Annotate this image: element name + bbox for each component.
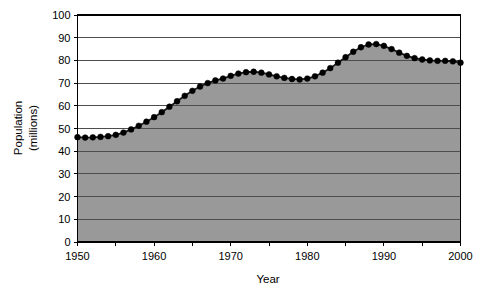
data-point — [396, 50, 402, 56]
y-tick-label-60: 60 — [58, 100, 70, 112]
data-point — [450, 58, 456, 64]
data-point — [404, 53, 410, 59]
data-point — [243, 69, 249, 75]
data-point — [312, 73, 318, 79]
data-point — [358, 44, 364, 50]
y-tick-label-0: 0 — [64, 236, 70, 248]
data-point — [136, 123, 142, 129]
data-point — [412, 55, 418, 61]
data-point — [212, 77, 218, 83]
data-point — [121, 130, 127, 136]
data-point — [281, 75, 287, 81]
data-point — [427, 58, 433, 64]
data-point — [419, 57, 425, 63]
population-chart: 0102030405060708090100 19501960197019801… — [0, 0, 495, 290]
y-axis-title-line1: Population — [12, 101, 24, 155]
data-point — [266, 72, 272, 78]
data-point — [320, 70, 326, 76]
data-point — [82, 135, 88, 141]
data-point — [327, 65, 333, 71]
y-tick-label-90: 90 — [58, 32, 70, 44]
x-tick-label-1960: 1960 — [142, 250, 166, 262]
data-point — [435, 58, 441, 64]
data-point — [350, 49, 356, 55]
y-tick-label-70: 70 — [58, 77, 70, 89]
data-point — [98, 134, 104, 140]
data-point — [167, 104, 173, 110]
data-point — [235, 71, 241, 77]
data-point — [113, 132, 119, 138]
y-tick-label-10: 10 — [58, 213, 70, 225]
data-point — [197, 84, 203, 90]
data-point — [105, 133, 111, 139]
data-point — [335, 60, 341, 66]
data-point — [220, 76, 226, 82]
x-tick-label-1950: 1950 — [65, 250, 89, 262]
x-tick-label-1980: 1980 — [295, 250, 319, 262]
data-point — [174, 98, 180, 104]
data-point — [190, 88, 196, 94]
y-tick-label-20: 20 — [58, 191, 70, 203]
data-point — [128, 127, 134, 133]
data-point — [297, 77, 303, 83]
data-point — [289, 76, 295, 82]
data-point — [182, 93, 188, 99]
x-tick-label-2000: 2000 — [448, 250, 472, 262]
data-point — [304, 76, 310, 82]
x-tick-label-1990: 1990 — [372, 250, 396, 262]
x-tick-label-1970: 1970 — [218, 250, 242, 262]
y-axis-title-line2: (millions) — [27, 105, 39, 151]
data-point — [381, 43, 387, 49]
y-tick-label-30: 30 — [58, 168, 70, 180]
data-point — [373, 41, 379, 47]
data-point — [251, 69, 257, 75]
data-point — [389, 46, 395, 52]
x-axis-title: Year — [256, 273, 279, 285]
data-point — [442, 58, 448, 64]
data-point — [258, 70, 264, 76]
data-point — [159, 109, 165, 115]
data-point — [274, 73, 280, 79]
y-tick-label-50: 50 — [58, 123, 70, 135]
chart-canvas: 0102030405060708090100 19501960197019801… — [0, 0, 495, 290]
y-tick-label-80: 80 — [58, 54, 70, 66]
data-point — [75, 134, 81, 140]
data-point — [90, 134, 96, 140]
data-point — [458, 60, 464, 66]
data-point — [205, 80, 211, 86]
data-point — [144, 119, 150, 125]
data-point — [228, 73, 234, 79]
data-point — [366, 42, 372, 48]
y-tick-label-100: 100 — [52, 9, 70, 21]
data-point — [343, 54, 349, 60]
y-tick-label-40: 40 — [58, 145, 70, 157]
data-point — [151, 114, 157, 120]
